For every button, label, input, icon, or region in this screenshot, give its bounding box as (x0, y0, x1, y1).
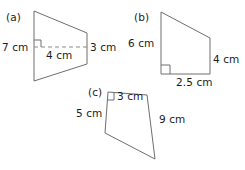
shape-c (105, 92, 155, 159)
label-c-right-side: 9 cm (159, 114, 185, 125)
shape-c-outline (105, 92, 155, 159)
label-b-base: 2.5 cm (176, 77, 213, 88)
label-b-left-side: 6 cm (128, 38, 154, 49)
label-a-right-side: 3 cm (90, 42, 116, 53)
shape-a-outline (34, 11, 87, 81)
shape-b-right-angle-icon (161, 65, 170, 74)
label-a-left-side: 7 cm (2, 42, 28, 53)
label-a-height: 4 cm (46, 50, 72, 61)
shape-b (161, 12, 210, 74)
shape-a (34, 11, 87, 81)
panel-tag-a: (a) (6, 12, 21, 23)
label-c-left-side: 5 cm (76, 108, 102, 119)
label-b-right-side: 4 cm (213, 54, 239, 65)
panel-tag-b: (b) (134, 12, 149, 23)
shape-c-right-angle-icon (108, 93, 114, 100)
shape-a-right-angle-icon (34, 40, 41, 47)
label-c-top-side: 3 cm (117, 91, 143, 102)
geometry-figure: (a) 7 cm 4 cm 3 cm (b) 6 cm 4 cm 2.5 cm … (0, 0, 245, 170)
panel-tag-c: (c) (88, 87, 102, 98)
